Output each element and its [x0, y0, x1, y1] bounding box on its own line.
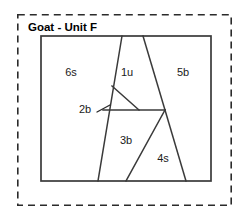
unit-partition-diagram: Goat - Unit F 6s 1u 5b 2b 3b 4s: [0, 0, 248, 219]
region-label-6s: 6s: [65, 66, 77, 78]
region-label-5b: 5b: [177, 66, 189, 78]
region-label-3b: 3b: [120, 134, 132, 146]
region-label-2b: 2b: [79, 103, 91, 115]
region-label-4s: 4s: [157, 152, 169, 164]
goat-unit-f-figure: Goat - Unit F 6s 1u 5b 2b 3b 4s: [0, 0, 248, 219]
unit-boundary-rectangle: [41, 36, 211, 181]
region-label-1u: 1u: [121, 66, 133, 78]
page-title: Goat - Unit F: [28, 21, 97, 33]
